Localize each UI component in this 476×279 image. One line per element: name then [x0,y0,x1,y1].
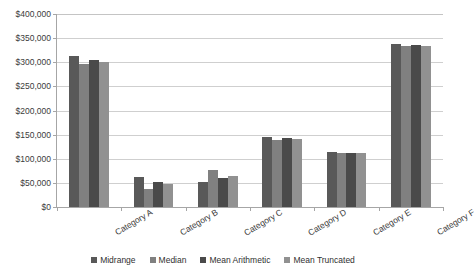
bar-group [69,14,109,207]
legend-swatch-icon [91,257,97,263]
bar [272,140,282,207]
x-axis-category-label: Category D [307,207,349,238]
bar [218,178,228,207]
bar-group [327,14,367,207]
legend-label: Mean Arithmetic [209,255,270,265]
y-axis-tick-label: $50,000 [20,178,51,187]
x-axis-category-label: Category E [371,207,413,237]
legend-swatch-icon [200,257,206,263]
x-axis-tick-mark [443,207,444,211]
y-axis-tick-label: $200,000 [16,106,51,115]
bar [79,64,89,207]
bar [262,137,272,207]
bar [69,56,79,207]
bar [411,45,421,207]
bar [401,46,411,207]
bar [163,184,173,207]
legend-item[interactable]: Mean Truncated [284,255,354,265]
bar [346,153,356,207]
bar [208,170,218,207]
y-axis: $400,000$350,000$300,000$250,000$200,000… [0,0,56,279]
y-axis-tick-label: $0 [42,203,51,212]
bar-group [262,14,302,207]
x-axis-category-label: Category A [113,207,154,237]
bar [282,138,292,207]
bar [89,60,99,207]
bar-group [134,14,174,207]
y-axis-tick-label: $400,000 [16,10,51,19]
bar [144,189,154,207]
legend-label: Median [159,255,187,265]
bar-group [391,14,431,207]
legend-item[interactable]: Median [150,255,187,265]
x-axis-category-labels: Category ACategory BCategory CCategory D… [56,207,442,252]
bar [356,153,366,207]
bar [391,44,401,207]
x-axis-category-label: Category F [435,207,476,237]
legend-item[interactable]: Midrange [91,255,135,265]
y-axis-tick-label: $250,000 [16,82,51,91]
bar [228,176,238,207]
bar [337,153,347,207]
y-axis-tick-label: $100,000 [16,154,51,163]
y-axis-tick-label: $350,000 [16,34,51,43]
bar [421,46,431,207]
legend-swatch-icon [150,257,156,263]
x-axis-category-label: Category C [242,207,284,238]
bar [153,182,163,207]
chart-legend: MidrangeMedianMean ArithmeticMean Trunca… [0,255,446,265]
bar [198,182,208,207]
bars-layer [57,14,443,207]
bar-group [198,14,238,207]
bar [99,62,109,207]
y-axis-tick-label: $150,000 [16,130,51,139]
legend-label: Mean Truncated [293,255,354,265]
y-axis-tick-label: $300,000 [16,58,51,67]
bar [134,177,144,207]
bar [292,139,302,207]
legend-item[interactable]: Mean Arithmetic [200,255,270,265]
x-axis-category-label: Category B [178,207,220,237]
plot-area [56,14,443,208]
legend-label: Midrange [100,255,135,265]
bar [327,152,337,207]
legend-swatch-icon [284,257,290,263]
